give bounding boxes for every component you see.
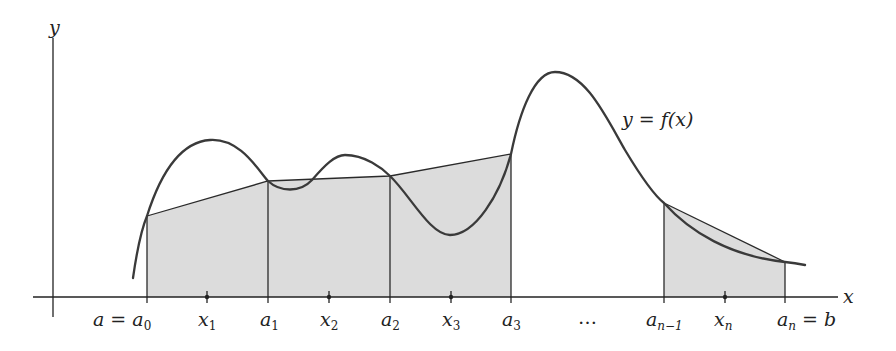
label-a0: a = a0 <box>93 308 151 333</box>
label-x3-main: x <box>442 308 453 330</box>
label-an-1-sub: n−1 <box>657 319 682 333</box>
label-x3: x3 <box>442 308 460 333</box>
label-x1-main: x <box>198 308 209 330</box>
label-a2-sub: 2 <box>392 319 400 333</box>
dot-x1 <box>205 295 209 299</box>
label-a1: a1 <box>260 308 279 333</box>
label-xn-sub: n <box>725 319 733 333</box>
label-an-1: an−1 <box>646 308 683 333</box>
label-an-main: a <box>777 308 788 330</box>
dot-x2 <box>327 295 331 299</box>
trapezoid-n <box>664 203 785 297</box>
label-x2-sub: 2 <box>331 319 339 333</box>
label-an-suffix: = b <box>796 308 836 330</box>
label-an-1-main: a <box>646 308 657 330</box>
curve-label: y = f(x) <box>621 108 693 130</box>
trapezoid-3 <box>390 154 511 297</box>
label-a3-sub: 3 <box>513 319 521 333</box>
label-xn: xn <box>714 308 732 333</box>
label-x1: x1 <box>198 308 216 333</box>
trapezoid-2 <box>268 176 390 297</box>
label-xn-main: x <box>714 308 725 330</box>
dot-xn <box>723 295 727 299</box>
label-a3-main: a <box>502 308 513 330</box>
label-a3: a3 <box>502 308 521 333</box>
label-an-sub: n <box>788 319 796 333</box>
label-x3-sub: 3 <box>453 319 461 333</box>
label-a2: a2 <box>381 308 400 333</box>
label-a2-main: a <box>381 308 392 330</box>
x-axis-label: x <box>843 285 854 307</box>
label-a0-sub: 0 <box>144 319 152 333</box>
label-x1-sub: 1 <box>209 319 217 333</box>
y-axis-label: y <box>48 16 60 38</box>
label-x2-main: x <box>320 308 331 330</box>
label-a0-main: a = a <box>93 308 144 330</box>
label-a1-main: a <box>260 308 271 330</box>
trapezoid-rule-diagram: y x y = f(x) a = a0 a1 a2 a3 an−1 an = b… <box>0 0 896 351</box>
ellipsis: … <box>578 306 597 328</box>
dot-x3 <box>449 295 453 299</box>
label-a1-sub: 1 <box>271 319 279 333</box>
label-an: an = b <box>777 308 836 333</box>
label-x2: x2 <box>320 308 338 333</box>
